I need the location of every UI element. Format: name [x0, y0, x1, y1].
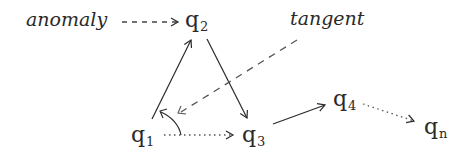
node-q4-sub: 4: [348, 98, 356, 113]
diagram-canvas: anomaly tangent q2 q1 q3 q4 qn: [0, 0, 469, 155]
label-tangent: tangent: [290, 9, 364, 28]
node-q3-sub: 3: [257, 134, 265, 149]
node-q2-sub: 2: [200, 19, 208, 34]
edge-q1-to-q2: [152, 40, 191, 119]
angle-arc-q1: [161, 112, 181, 135]
node-q3-base: q: [242, 122, 256, 147]
node-q1-base: q: [131, 122, 145, 147]
node-q3: q3: [242, 124, 265, 148]
node-qn: qn: [424, 116, 447, 140]
node-qn-sub: n: [439, 126, 447, 141]
node-q2: q2: [185, 9, 208, 33]
label-anomaly: anomaly: [26, 10, 107, 29]
node-q2-base: q: [185, 7, 199, 32]
node-q4-base: q: [333, 86, 347, 111]
node-q4: q4: [333, 88, 356, 112]
node-qn-base: q: [424, 114, 438, 139]
node-q1-sub: 1: [146, 134, 154, 149]
edge-q2-to-q3: [207, 39, 247, 118]
node-q1: q1: [131, 124, 154, 148]
edge-q3-to-q4: [273, 105, 325, 124]
edge-q4-to-qn: [363, 104, 414, 121]
